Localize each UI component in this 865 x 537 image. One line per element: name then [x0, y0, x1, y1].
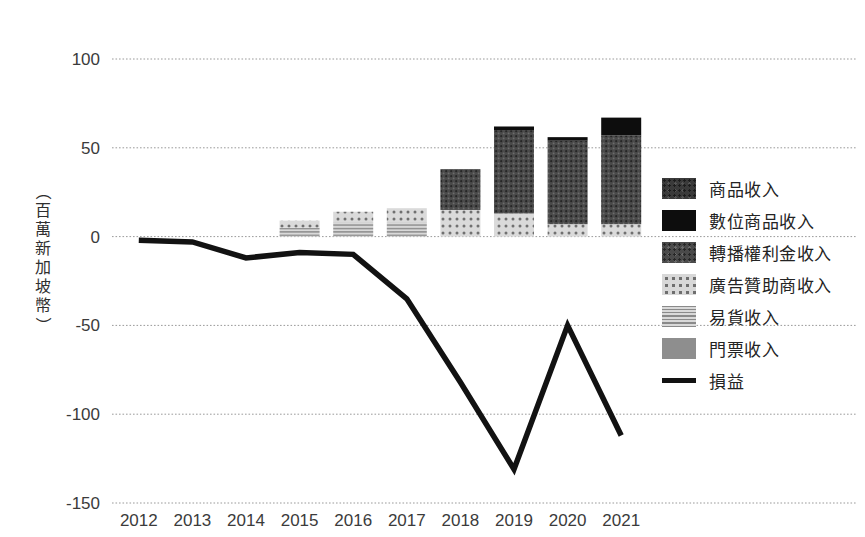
bar-segment-digital	[494, 126, 534, 130]
legend-swatch-icon	[662, 338, 696, 359]
legend-swatch-icon	[662, 178, 696, 199]
bar-segment-advertising	[440, 210, 480, 237]
legend-item-label: 商品收入	[709, 176, 779, 201]
bar-stack	[440, 169, 480, 236]
bar-stack	[601, 118, 641, 237]
bar-segment-barter	[333, 222, 373, 236]
y-tick-label: 0	[91, 228, 100, 247]
x-tick-label: 2013	[173, 511, 211, 530]
bar-stack	[280, 221, 320, 237]
bar-segment-advertising	[494, 214, 534, 237]
y-tick-label: 50	[81, 139, 100, 158]
legend-item-label: 門票收入	[709, 336, 779, 361]
legend-item[interactable]: 易貨收入	[662, 300, 862, 332]
bar-segment-broadcast	[601, 135, 641, 224]
bar-stack	[333, 212, 373, 237]
legend-swatch-icon	[662, 274, 696, 295]
legend-item-label: 數位商品收入	[709, 208, 814, 233]
legend-item-label: 廣告贊助商收入	[709, 272, 832, 297]
bar-segment-advertising	[601, 224, 641, 236]
bar-stack	[387, 208, 427, 236]
x-tick-label: 2019	[495, 511, 533, 530]
y-tick-label: -150	[66, 494, 100, 513]
legend-item[interactable]: 數位商品收入	[662, 204, 862, 236]
legend-swatch-icon	[662, 242, 696, 263]
legend-item-label: 易貨收入	[709, 304, 779, 329]
legend-item-label: 轉播權利金收入	[709, 240, 832, 265]
bar-segment-advertising	[333, 212, 373, 223]
x-tick-label: 2018	[441, 511, 479, 530]
bar-series-group	[280, 118, 642, 237]
legend-item[interactable]: 門票收入	[662, 332, 862, 364]
bar-stack	[548, 137, 588, 236]
legend-item[interactable]: 轉播權利金收入	[662, 236, 862, 268]
legend-item-label: 損益	[709, 368, 744, 393]
bar-segment-digital	[601, 118, 641, 136]
x-tick-label: 2021	[602, 511, 640, 530]
line-path-profit-loss	[139, 240, 621, 469]
legend-item[interactable]: 商品收入	[662, 172, 862, 204]
x-tick-label: 2015	[281, 511, 319, 530]
legend-item[interactable]: 廣告贊助商收入	[662, 268, 862, 300]
bar-segment-broadcast	[440, 169, 480, 210]
x-tick-label: 2017	[388, 511, 426, 530]
bar-segment-barter	[280, 228, 320, 237]
bar-segment-advertising	[280, 221, 320, 228]
legend-swatch-icon	[662, 306, 696, 327]
y-tick-label: -100	[66, 405, 100, 424]
bar-segment-broadcast	[548, 141, 588, 224]
chart-legend: 商品收入數位商品收入轉播權利金收入廣告贊助商收入易貨收入門票收入損益	[662, 172, 862, 396]
y-tick-label: 100	[72, 50, 100, 69]
y-tick-label: -50	[75, 316, 100, 335]
bar-stack	[494, 126, 534, 236]
bar-segment-advertising	[548, 224, 588, 236]
bar-segment-advertising	[387, 208, 427, 222]
bar-segment-barter	[387, 222, 427, 236]
chart-container: （百萬新加坡幣）	[0, 0, 865, 537]
x-tick-label: 2020	[549, 511, 587, 530]
legend-line-icon	[662, 370, 696, 391]
x-tick-label: 2016	[334, 511, 372, 530]
profit-loss-line	[139, 240, 621, 469]
x-tick-label: 2014	[227, 511, 265, 530]
y-axis-tick-labels: 100500-50-100-150	[66, 50, 100, 513]
x-axis-tick-labels: 2012201320142015201620172018201920202021	[120, 511, 640, 530]
legend-item-line[interactable]: 損益	[662, 364, 862, 396]
legend-swatch-icon	[662, 210, 696, 231]
x-tick-label: 2012	[120, 511, 158, 530]
bar-segment-broadcast	[494, 130, 534, 213]
bar-segment-digital	[548, 137, 588, 141]
